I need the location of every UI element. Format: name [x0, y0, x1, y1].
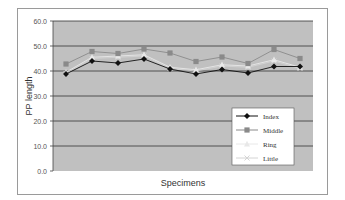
y-tick-label: 0.0: [37, 168, 47, 175]
y-tick-label: 10.0: [33, 143, 47, 150]
y-axis-ticks: 0.010.020.030.040.050.060.0: [33, 18, 53, 175]
y-tick-label: 30.0: [33, 93, 47, 100]
y-tick-label: 20.0: [33, 118, 47, 125]
legend-label: Ring: [263, 141, 277, 149]
x-axis-title: Specimens: [161, 178, 206, 188]
legend-label: Middle: [263, 127, 283, 135]
legend-label: Little: [263, 155, 278, 163]
y-axis-title: PP length: [24, 77, 34, 116]
line-chart: 0.010.020.030.040.050.060.0 PP length Sp…: [0, 0, 345, 200]
y-tick-label: 40.0: [33, 68, 47, 75]
y-tick-label: 50.0: [33, 43, 47, 50]
y-tick-label: 60.0: [33, 18, 47, 25]
legend: IndexMiddleRingLittle: [232, 108, 294, 165]
legend-label: Index: [263, 113, 279, 121]
